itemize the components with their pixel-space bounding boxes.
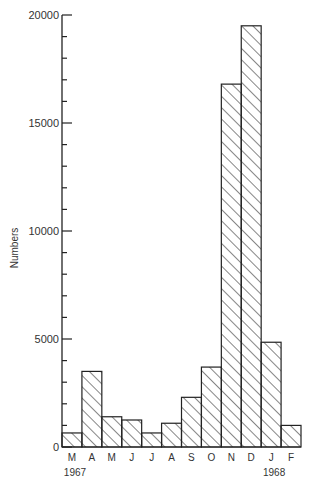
x-tick-label: F xyxy=(288,452,294,463)
bar-apr-1967 xyxy=(82,371,102,447)
y-tick-label: 5000 xyxy=(35,333,59,345)
bar-aug-1967 xyxy=(162,423,182,447)
bar-jun-1967 xyxy=(122,420,142,447)
bar-jul-1967 xyxy=(142,433,162,447)
x-tick-label: N xyxy=(228,452,235,463)
bar-dec-1967 xyxy=(241,26,261,447)
bars xyxy=(62,26,301,447)
bar-nov-1967 xyxy=(221,84,241,447)
year-label: 1967 xyxy=(64,467,87,478)
x-axis: MAMJJASONDJF19671968 xyxy=(62,447,301,478)
x-tick-label: J xyxy=(269,452,274,463)
x-tick-label: J xyxy=(149,452,154,463)
bar-may-1967 xyxy=(102,417,122,447)
x-tick-label: D xyxy=(248,452,255,463)
year-label: 1968 xyxy=(263,467,286,478)
x-tick-label: S xyxy=(188,452,195,463)
bar-mar-1967 xyxy=(62,433,82,447)
bar-sep-1967 xyxy=(182,397,202,447)
x-tick-label: J xyxy=(129,452,134,463)
y-tick-label: 0 xyxy=(53,441,59,453)
x-tick-label: O xyxy=(207,452,215,463)
y-tick-label: 15000 xyxy=(28,117,59,129)
x-tick-label: M xyxy=(68,452,76,463)
x-tick-label: M xyxy=(108,452,116,463)
y-tick-label: 20000 xyxy=(28,9,59,21)
y-axis: 05000100001500020000 xyxy=(28,9,72,453)
histogram-chart: 05000100001500020000 MAMJJASONDJF1967196… xyxy=(0,0,312,485)
bar-jan-1968 xyxy=(261,342,281,447)
y-axis-label: Numbers xyxy=(9,228,20,269)
y-tick-label: 10000 xyxy=(28,225,59,237)
bar-feb-1968 xyxy=(281,425,301,447)
bar-oct-1967 xyxy=(201,367,221,447)
x-tick-label: A xyxy=(89,452,96,463)
x-tick-label: A xyxy=(168,452,175,463)
